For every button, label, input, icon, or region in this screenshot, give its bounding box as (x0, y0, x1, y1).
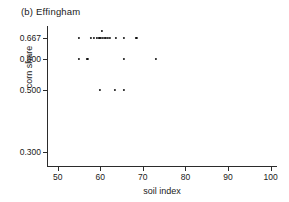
x-tick-mark (100, 167, 101, 171)
x-tick-mark (228, 167, 229, 171)
data-point (90, 37, 92, 39)
x-tick-label: 70 (138, 173, 147, 182)
data-point (78, 37, 80, 39)
x-tick-mark (271, 167, 272, 171)
x-tick-mark (143, 167, 144, 171)
data-point (123, 58, 125, 60)
data-point (114, 37, 116, 39)
data-point (123, 89, 125, 91)
y-tick-label: 0.300 (20, 148, 41, 157)
y-axis-spine (47, 26, 48, 167)
y-axis-label: corn share (24, 32, 34, 102)
y-tick-mark (43, 90, 47, 91)
panel-title: (b) Effingham (21, 6, 80, 17)
x-axis-label: soil index (47, 186, 277, 196)
y-tick-mark (43, 59, 47, 60)
data-point (86, 58, 88, 60)
data-point (135, 37, 137, 39)
x-axis-spine (47, 166, 277, 167)
data-point (100, 30, 102, 32)
y-tick-mark (43, 38, 47, 39)
scatter-chart-figure: (b) Effingham 0.6670.6000.5000.300 50607… (0, 0, 289, 202)
x-tick-label: 50 (53, 173, 62, 182)
data-point (78, 58, 80, 60)
data-point (155, 58, 157, 60)
data-point (114, 89, 116, 91)
x-tick-mark (58, 167, 59, 171)
data-point (99, 89, 101, 91)
x-tick-label: 80 (181, 173, 190, 182)
data-point (93, 37, 95, 39)
x-tick-label: 100 (264, 173, 278, 182)
x-tick-mark (185, 167, 186, 171)
x-tick-label: 60 (96, 173, 105, 182)
data-point (123, 37, 125, 39)
y-tick-mark (43, 152, 47, 153)
data-point (109, 37, 111, 39)
plot-area: 0.6670.6000.5000.300 5060708090100 (47, 26, 277, 167)
x-tick-label: 90 (223, 173, 232, 182)
